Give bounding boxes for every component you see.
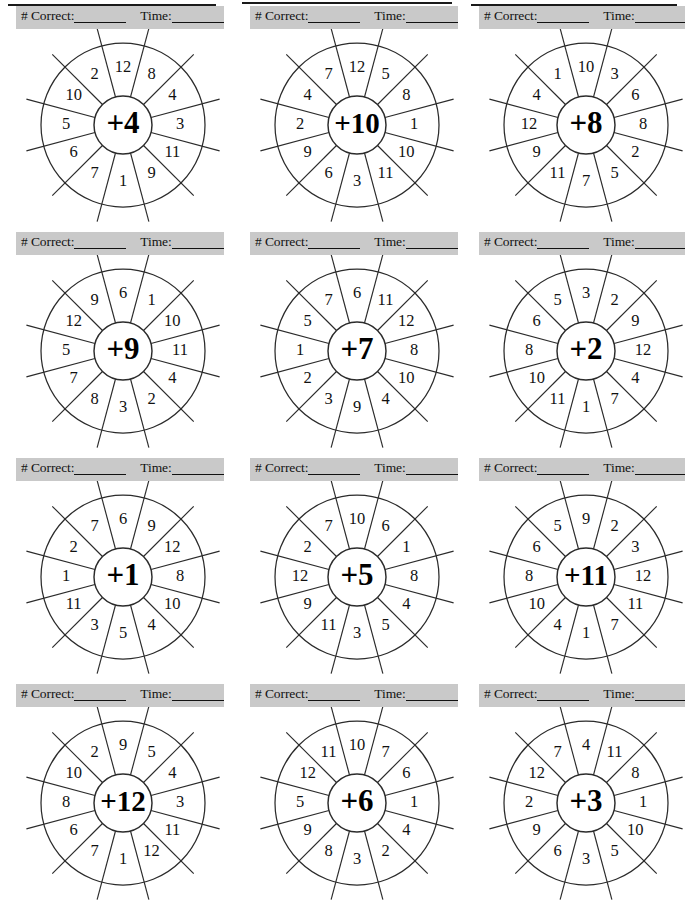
time-input[interactable] [172, 700, 224, 701]
wheel-operand: 5 [553, 516, 561, 535]
correct-count-input[interactable] [537, 22, 589, 23]
wheel-problem-cell: # Correct:Time:618453119122710+5 [242, 458, 467, 681]
wheel-operand: 4 [533, 85, 541, 104]
wheel-operand: 3 [324, 389, 332, 408]
wheel-operand: 10 [349, 509, 366, 528]
fact-wheel: 368257119124110+8 [471, 29, 689, 229]
wheel-operand: 8 [525, 340, 533, 359]
correct-count-input[interactable] [74, 474, 126, 475]
wheel-problem-cell: # Correct:Time:110114238751296+9 [8, 232, 233, 455]
wheel-operand: 11 [607, 742, 623, 761]
time-label: Time: [603, 8, 634, 23]
wheel-operand: 4 [168, 85, 176, 104]
wheel-operand: 10 [528, 594, 545, 613]
wheel-operand: 1 [553, 64, 561, 83]
time-input[interactable] [635, 700, 685, 701]
correct-count-input[interactable] [537, 700, 589, 701]
correct-count-input[interactable] [308, 248, 360, 249]
wheel-operand: 3 [353, 849, 361, 868]
correct-count-input[interactable] [308, 22, 360, 23]
wheel-operand: 2 [304, 368, 312, 387]
correct-count-input[interactable] [74, 22, 126, 23]
fact-wheel: 291247111108653+2 [471, 255, 689, 455]
wheel-operand: 4 [168, 763, 176, 782]
correct-count-input[interactable] [308, 700, 360, 701]
wheel-operand: 12 [65, 311, 82, 330]
wheel-operand: 11 [164, 142, 180, 161]
wheel-operand: 6 [631, 85, 639, 104]
wheel-operand: 5 [296, 792, 304, 811]
wheel-operand: 9 [353, 397, 361, 416]
wheel-operand: 3 [582, 849, 590, 868]
correct-count-label: # Correct: [21, 234, 74, 249]
correct-count-input[interactable] [74, 248, 126, 249]
wheel-operand: 8 [90, 389, 98, 408]
correct-count-label: # Correct: [21, 8, 74, 23]
wheel-operand: 4 [553, 615, 561, 634]
wheel-operand: 9 [533, 820, 541, 839]
wheel-operand: 10 [528, 368, 545, 387]
correct-count-label: # Correct: [21, 686, 74, 701]
wheel-operand: 10 [65, 763, 82, 782]
wheel-operator: +2 [569, 331, 602, 366]
wheel-operand: 5 [381, 64, 389, 83]
time-input[interactable] [635, 22, 685, 23]
fact-wheel: 761423895121110+6 [242, 707, 467, 904]
wheel-operand: 2 [610, 516, 618, 535]
time-input[interactable] [172, 248, 224, 249]
wheel-operand: 2 [147, 389, 155, 408]
wheel-operand: 4 [381, 389, 389, 408]
wheel-operator: +11 [564, 559, 608, 591]
wheel-operand: 1 [119, 171, 127, 190]
wheel-operand: 9 [304, 594, 312, 613]
wheel-operand: 12 [292, 566, 309, 585]
correct-count-input[interactable] [74, 700, 126, 701]
time-input[interactable] [172, 474, 224, 475]
fact-wheel: 543111217681029+12 [8, 707, 233, 904]
correct-count-input[interactable] [308, 474, 360, 475]
time-input[interactable] [406, 700, 458, 701]
wheel-operand: 7 [90, 163, 98, 182]
correct-count-label: # Correct: [484, 8, 537, 23]
time-input[interactable] [635, 474, 685, 475]
wheel-operand: 1 [410, 114, 418, 133]
fact-wheel: 618453119122710+5 [242, 481, 467, 681]
wheel-operand: 6 [533, 537, 541, 556]
wheel-operand: 9 [119, 735, 127, 754]
wheel-operand: 3 [176, 114, 184, 133]
correct-count-label: # Correct: [255, 234, 308, 249]
wheel-operand: 9 [90, 290, 98, 309]
time-label: Time: [140, 234, 171, 249]
score-header-band: # Correct:Time: [16, 6, 224, 29]
correct-count-input[interactable] [537, 474, 589, 475]
time-input[interactable] [406, 22, 458, 23]
wheel-operand: 12 [398, 311, 415, 330]
wheel-operand: 12 [115, 57, 132, 76]
fact-wheel: 118110536921274+3 [471, 707, 689, 904]
wheel-operand: 12 [635, 340, 652, 359]
time-input[interactable] [172, 22, 224, 23]
wheel-operator: +9 [106, 331, 139, 366]
wheel-operand: 10 [627, 820, 644, 839]
wheel-operand: 8 [631, 763, 639, 782]
wheel-operand: 10 [164, 594, 181, 613]
wheel-operand: 8 [410, 340, 418, 359]
wheel-operand: 12 [635, 566, 652, 585]
correct-count-label: # Correct: [484, 460, 537, 475]
wheel-operand: 10 [349, 735, 366, 754]
wheel-operand: 11 [550, 389, 566, 408]
wheel-operand: 8 [639, 114, 647, 133]
wheel-operand: 11 [164, 820, 180, 839]
correct-count-input[interactable] [537, 248, 589, 249]
wheel-operand: 6 [119, 509, 127, 528]
time-input[interactable] [635, 248, 685, 249]
wheel-operand: 10 [164, 311, 181, 330]
time-input[interactable] [406, 248, 458, 249]
time-label: Time: [374, 460, 405, 475]
wheel-operand: 4 [304, 85, 312, 104]
score-header-band: # Correct:Time: [16, 684, 224, 707]
wheel-operand: 9 [147, 516, 155, 535]
time-input[interactable] [406, 474, 458, 475]
wheel-operand: 6 [533, 311, 541, 330]
wheel-operand: 12 [164, 537, 181, 556]
